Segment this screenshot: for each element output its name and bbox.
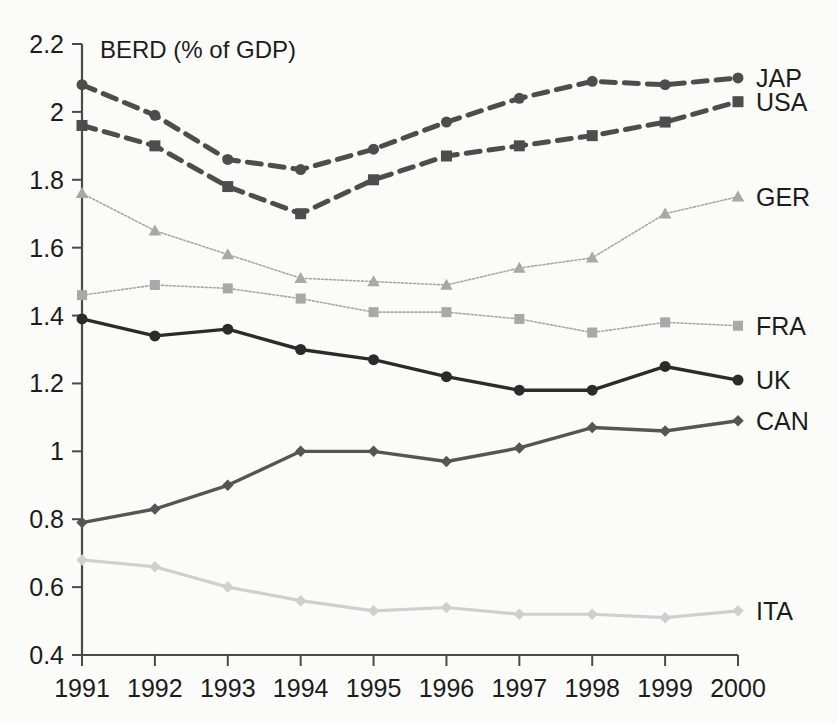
data-point-jap-1996[interactable]	[441, 117, 452, 128]
y-tick-label: 0.8	[29, 505, 64, 533]
chart-page: 0.40.60.811.21.41.61.822.219911992199319…	[0, 0, 837, 724]
data-point-ita-1996[interactable]	[441, 602, 453, 614]
data-point-fra-1997[interactable]	[514, 314, 524, 324]
berd-line-chart: 0.40.60.811.21.41.61.822.219911992199319…	[0, 0, 837, 724]
data-point-ita-1991[interactable]	[76, 554, 88, 566]
series-ger[interactable]: GER	[76, 183, 810, 290]
data-point-ger-1998[interactable]	[586, 252, 599, 263]
y-tick-label: 1.2	[29, 369, 64, 397]
data-point-usa-2000[interactable]	[733, 96, 744, 107]
data-point-jap-1992[interactable]	[149, 110, 160, 121]
series-label-ger: GER	[756, 183, 810, 211]
data-point-jap-1997[interactable]	[514, 93, 525, 104]
series-can[interactable]: CAN	[76, 407, 809, 529]
x-tick-label: 1999	[637, 674, 693, 702]
y-tick-label: 1.4	[29, 302, 64, 330]
data-point-ger-1994[interactable]	[294, 272, 307, 283]
y-tick-label: 1.8	[29, 166, 64, 194]
series-label-usa: USA	[756, 88, 808, 116]
data-point-ger-1992[interactable]	[149, 224, 162, 235]
x-tick-label: 1993	[200, 674, 256, 702]
data-point-fra-1996[interactable]	[441, 307, 451, 317]
y-tick-label: 2	[50, 98, 64, 126]
series-line-uk	[82, 319, 738, 390]
x-tick-label: 1997	[492, 674, 548, 702]
data-point-usa-1994[interactable]	[295, 208, 306, 219]
y-tick-label: 1	[50, 437, 64, 465]
x-tick-label: 1998	[564, 674, 620, 702]
data-point-ita-1997[interactable]	[514, 609, 526, 621]
data-point-can-1995[interactable]	[368, 446, 380, 458]
series-label-uk: UK	[756, 366, 791, 394]
data-point-fra-1992[interactable]	[150, 280, 160, 290]
series-line-can	[82, 421, 738, 523]
data-point-uk-1995[interactable]	[368, 354, 379, 365]
data-point-jap-1993[interactable]	[222, 154, 233, 165]
series-line-ita	[82, 560, 738, 618]
data-point-fra-2000[interactable]	[733, 321, 743, 331]
data-point-fra-1991[interactable]	[77, 290, 87, 300]
data-point-fra-1999[interactable]	[660, 317, 670, 327]
data-point-ita-1995[interactable]	[368, 605, 380, 617]
x-tick-label: 1996	[419, 674, 475, 702]
data-point-can-1997[interactable]	[514, 442, 526, 454]
data-point-usa-1993[interactable]	[222, 181, 233, 192]
data-point-jap-1991[interactable]	[77, 79, 88, 90]
data-point-can-1996[interactable]	[441, 456, 453, 468]
series-label-fra: FRA	[756, 312, 806, 340]
data-point-usa-1998[interactable]	[587, 130, 598, 141]
data-point-uk-1998[interactable]	[587, 385, 598, 396]
data-point-jap-1994[interactable]	[295, 164, 306, 175]
y-tick-label: 2.2	[29, 30, 64, 58]
data-point-uk-1992[interactable]	[149, 330, 160, 341]
data-point-can-1993[interactable]	[222, 480, 234, 492]
data-point-ita-1999[interactable]	[659, 612, 671, 624]
data-point-ger-1991[interactable]	[76, 187, 89, 198]
data-point-jap-1995[interactable]	[368, 144, 379, 155]
data-point-uk-2000[interactable]	[733, 375, 744, 386]
data-point-usa-1999[interactable]	[660, 117, 671, 128]
data-point-ita-1994[interactable]	[295, 595, 307, 607]
data-point-ita-1993[interactable]	[222, 581, 234, 593]
data-point-can-1998[interactable]	[586, 422, 598, 434]
data-point-uk-1991[interactable]	[77, 313, 88, 324]
data-point-can-2000[interactable]	[732, 415, 744, 427]
data-point-usa-1995[interactable]	[368, 174, 379, 185]
data-point-jap-1998[interactable]	[587, 76, 598, 87]
series-line-ger	[82, 193, 738, 285]
plot-area: 0.40.60.811.21.41.61.822.219911992199319…	[29, 30, 810, 702]
data-point-ita-2000[interactable]	[732, 605, 744, 617]
data-point-can-1999[interactable]	[659, 425, 671, 437]
series-uk[interactable]: UK	[77, 313, 792, 395]
series-ita[interactable]: ITA	[76, 554, 793, 625]
data-point-ita-1998[interactable]	[586, 609, 598, 621]
data-point-jap-2000[interactable]	[733, 72, 744, 83]
data-point-jap-1999[interactable]	[660, 79, 671, 90]
data-point-fra-1995[interactable]	[369, 307, 379, 317]
data-point-uk-1996[interactable]	[441, 371, 452, 382]
series-line-fra	[82, 285, 738, 333]
data-point-usa-1996[interactable]	[441, 151, 452, 162]
data-point-usa-1991[interactable]	[77, 120, 88, 131]
data-point-uk-1999[interactable]	[660, 361, 671, 372]
data-point-fra-1993[interactable]	[223, 283, 233, 293]
series-label-can: CAN	[756, 407, 809, 435]
data-point-uk-1994[interactable]	[295, 344, 306, 355]
series-jap[interactable]: JAP	[77, 64, 802, 175]
data-point-fra-1998[interactable]	[587, 328, 597, 338]
x-tick-label: 1992	[127, 674, 183, 702]
x-tick-label: 1995	[346, 674, 402, 702]
data-point-ita-1992[interactable]	[149, 561, 161, 573]
data-point-usa-1997[interactable]	[514, 140, 525, 151]
data-point-uk-1993[interactable]	[222, 324, 233, 335]
data-point-uk-1997[interactable]	[514, 385, 525, 396]
data-point-usa-1992[interactable]	[149, 140, 160, 151]
y-tick-label: 1.6	[29, 234, 64, 262]
data-point-ger-2000[interactable]	[732, 191, 745, 202]
series-usa[interactable]: USA	[77, 88, 808, 220]
data-point-fra-1994[interactable]	[296, 294, 306, 304]
series-label-ita: ITA	[756, 597, 793, 625]
x-tick-label: 2000	[710, 674, 766, 702]
data-point-can-1992[interactable]	[149, 503, 161, 515]
data-point-can-1994[interactable]	[295, 446, 307, 458]
